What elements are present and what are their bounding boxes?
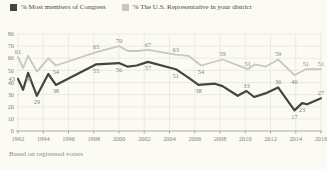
legend-label-own-representative: % The U.S. Representative in your distri… — [133, 3, 252, 12]
line-chart: 0102030405060708019921994199619982000200… — [0, 26, 327, 149]
y-tick-label: 60 — [8, 54, 14, 61]
legend-item-own-representative: % The U.S. Representative in your distri… — [122, 3, 252, 12]
data-point-label: 51 — [303, 60, 309, 67]
x-tick-label: 1996 — [62, 135, 75, 142]
data-point-label: 38 — [53, 87, 59, 94]
data-point-label: 48 — [25, 75, 31, 82]
x-tick-label: 1994 — [37, 135, 50, 142]
data-point-label: 59 — [219, 50, 225, 57]
data-point-label: 57 — [145, 64, 152, 71]
x-tick-label: 2010 — [239, 135, 252, 142]
data-point-label: 23 — [299, 106, 305, 113]
x-tick-label: 1998 — [87, 135, 100, 142]
y-tick-label: 50 — [8, 67, 14, 74]
x-tick-label: 2014 — [289, 135, 302, 142]
data-point-label: 29 — [34, 98, 40, 105]
data-point-label: 65 — [93, 43, 99, 50]
y-tick-label: 70 — [8, 42, 14, 49]
data-point-label: 51 — [318, 60, 324, 67]
y-tick-label: 80 — [8, 30, 14, 37]
x-tick-label: 2000 — [113, 135, 126, 142]
legend-swatch-own-representative — [122, 4, 129, 11]
data-point-label: 61 — [15, 48, 21, 55]
x-tick-label: 2006 — [188, 135, 201, 142]
data-point-label: 33 — [243, 82, 249, 89]
y-tick-label: 30 — [8, 91, 14, 98]
chart-canvas: 0102030405060708019921994199619982000200… — [0, 26, 327, 145]
data-point-label: 51 — [245, 60, 251, 67]
x-tick-label: 2016 — [315, 135, 327, 142]
y-tick-label: 0 — [11, 127, 14, 134]
x-tick-label: 2008 — [214, 135, 227, 142]
data-point-label: 38 — [195, 87, 201, 94]
data-point-label: 70 — [116, 37, 122, 44]
data-point-label: 43 — [9, 75, 15, 82]
x-tick-label: 2002 — [138, 135, 151, 142]
x-tick-label: 1992 — [12, 135, 25, 142]
legend-swatch-most-members — [10, 4, 17, 11]
data-point-label: 59 — [275, 50, 281, 57]
x-tick-label: 2004 — [163, 135, 176, 142]
data-point-label: 63 — [173, 46, 179, 53]
data-point-label: 54 — [53, 68, 60, 75]
y-tick-label: 10 — [8, 115, 14, 122]
data-point-label: 54 — [198, 68, 205, 75]
data-point-label: 51 — [173, 72, 179, 79]
legend-item-most-members: % Most members of Congress — [10, 3, 106, 12]
data-point-label: 55 — [93, 67, 99, 74]
chart-legend: % Most members of Congress % The U.S. Re… — [10, 3, 325, 12]
x-tick-label: 2012 — [264, 135, 277, 142]
data-point-label: 67 — [145, 41, 152, 48]
data-point-label: 46 — [291, 78, 297, 85]
data-point-label: 27 — [318, 89, 325, 96]
data-point-label: 17 — [291, 113, 298, 120]
legend-label-most-members: % Most members of Congress — [21, 3, 106, 12]
chart-footnote: Based on registered voters — [9, 150, 83, 158]
y-tick-label: 20 — [8, 103, 14, 110]
data-point-label: 56 — [116, 66, 122, 73]
data-point-label: 36 — [275, 78, 281, 85]
